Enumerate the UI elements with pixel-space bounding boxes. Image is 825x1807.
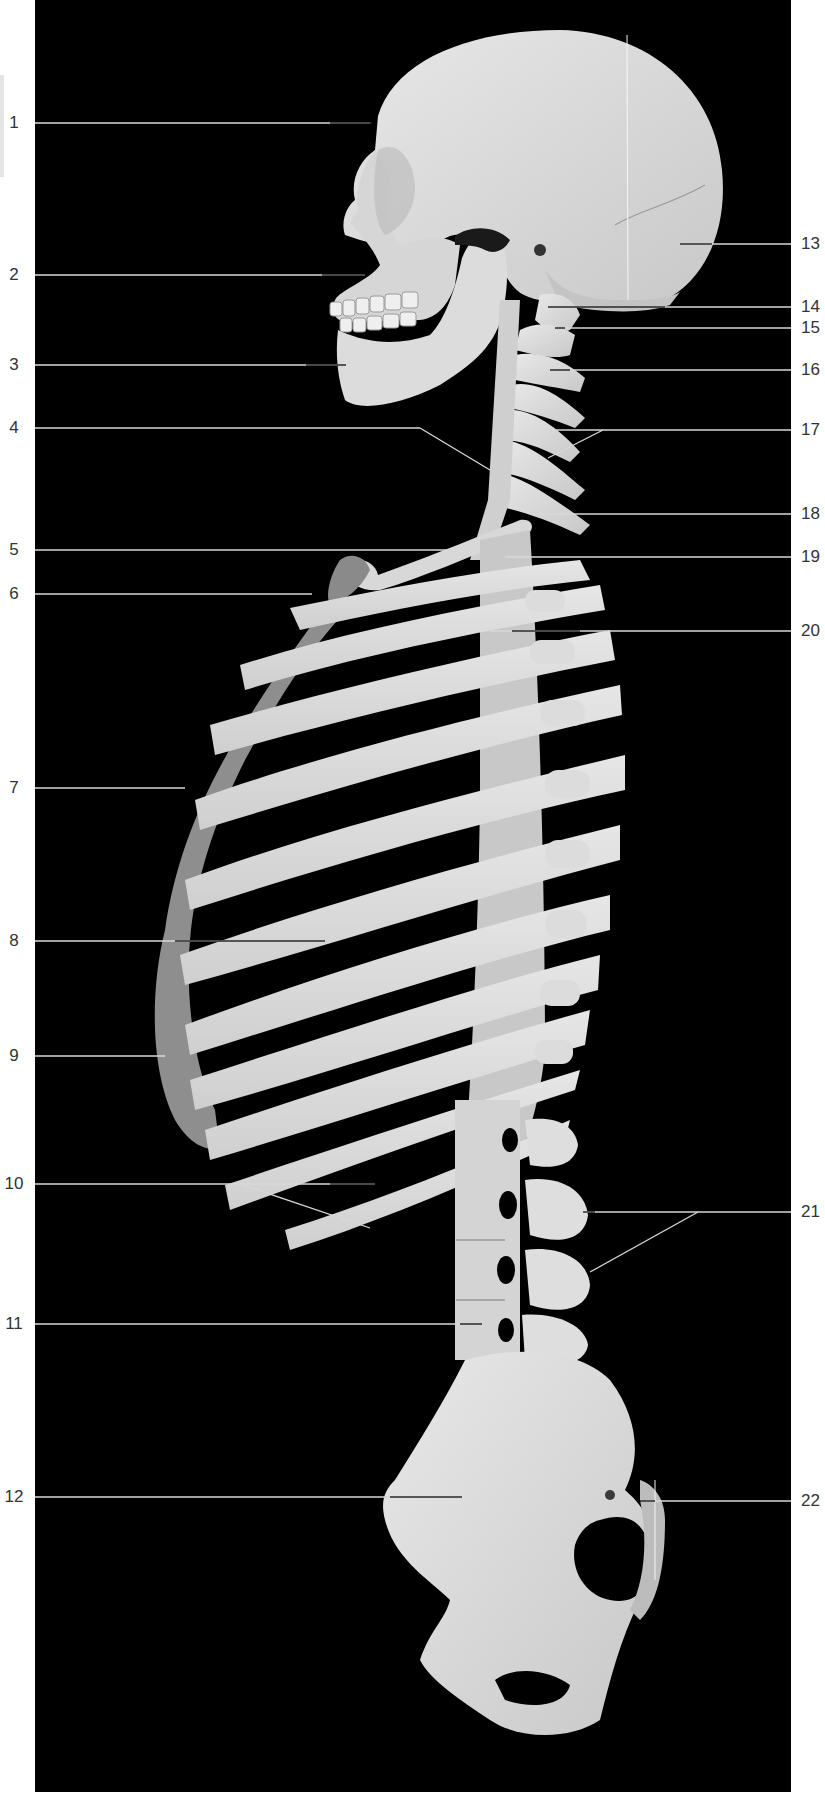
label-3: 3 <box>0 355 28 375</box>
label-7: 7 <box>0 778 28 798</box>
skeleton-photograph <box>35 0 791 1792</box>
pelvis <box>383 1352 665 1735</box>
label-12: 12 <box>0 1487 28 1507</box>
label-1: 1 <box>0 113 28 133</box>
label-15: 15 <box>796 318 825 338</box>
label-22: 22 <box>796 1491 825 1511</box>
label-13: 13 <box>796 234 825 254</box>
label-2: 2 <box>0 265 28 285</box>
label-6: 6 <box>0 584 28 604</box>
label-14: 14 <box>796 297 825 317</box>
label-9: 9 <box>0 1046 28 1066</box>
label-18: 18 <box>796 504 825 524</box>
label-11: 11 <box>0 1314 28 1334</box>
label-16: 16 <box>796 360 825 380</box>
label-17: 17 <box>796 420 825 440</box>
label-21: 21 <box>796 1202 825 1222</box>
label-19: 19 <box>796 547 825 567</box>
label-4: 4 <box>0 418 28 438</box>
label-5: 5 <box>0 540 28 560</box>
label-10: 10 <box>0 1174 28 1194</box>
label-8: 8 <box>0 931 28 951</box>
label-20: 20 <box>796 621 825 641</box>
